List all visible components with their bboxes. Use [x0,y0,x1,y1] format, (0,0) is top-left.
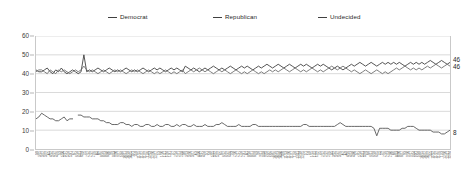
series-line-undecided [36,113,73,121]
plot-area [35,36,451,150]
series-line-democrat [36,55,450,74]
legend-item-democrat[interactable]: Democrat [108,14,148,20]
y-axis-tick-label: 20 [22,109,29,115]
y-axis-tickmark [30,150,34,151]
legend-label-democrat: Democrat [120,14,148,20]
y-axis-tick-label: 0 [25,147,29,153]
legend-line-democrat-icon [108,17,117,18]
poll-trend-chart: Democrat Republican Undecided 0102030405… [0,0,469,188]
y-axis-tick-label: 30 [22,90,29,96]
legend-item-undecided[interactable]: Undecided [318,14,360,20]
y-axis-tickmark [30,112,34,113]
legend-label-undecided: Undecided [330,14,360,20]
legend-item-republican[interactable]: Republican [213,14,257,20]
x-axis: 3/83/153/223/294/54/124/194/265/35/105/1… [35,151,451,188]
y-axis-tick-label: 10 [22,128,29,134]
plot-svg [36,36,450,149]
legend-line-republican-icon [213,17,222,18]
y-axis: 0102030405060 [0,36,33,150]
y-axis-tick-label: 50 [22,52,29,58]
y-axis-tick-label: 60 [22,33,29,39]
y-axis-tick-label: 40 [22,71,29,77]
y-axis-tickmark [30,36,34,37]
series-line-undecided [78,115,450,136]
chart-legend: Democrat Republican Undecided [0,14,469,28]
y-axis-tickmark [30,55,34,56]
end-value-label-undecided: 8 [453,130,457,136]
legend-label-republican: Republican [225,14,257,20]
end-value-label-republican: 46 [453,64,460,70]
y-axis-tickmark [30,93,34,94]
legend-line-undecided-icon [318,17,327,18]
y-axis-tickmark [30,74,34,75]
y-axis-tickmark [30,131,34,132]
